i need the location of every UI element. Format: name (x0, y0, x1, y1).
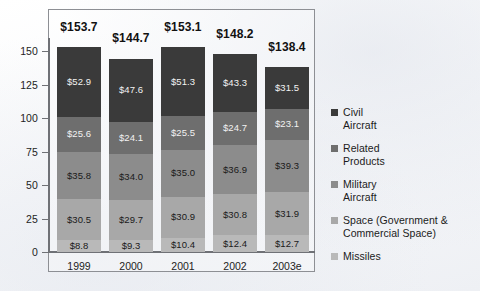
chart-legend: CivilAircraftRelatedProductsMilitaryAirc… (331, 106, 477, 274)
stacked-bar[interactable]: $12.7$31.9$39.3$23.1$31.5 (265, 67, 309, 252)
bar-segment-value-label: $47.6 (119, 85, 143, 95)
legend-swatch (331, 217, 338, 224)
legend-item-label: MilitaryAircraft (343, 178, 377, 203)
x-axis-category-label: 2003e (257, 261, 317, 272)
bar-segment: $31.9 (265, 192, 309, 235)
bar-segment: $30.5 (57, 199, 101, 240)
legend-item-label: RelatedProducts (343, 142, 385, 167)
legend-item-label-line2: Aircraft (343, 119, 377, 132)
bar-segment-value-label: $39.3 (275, 161, 299, 171)
bar-segment-value-label: $24.7 (223, 123, 247, 133)
bar-segment-value-label: $12.4 (223, 239, 247, 249)
bar-segment-value-label: $8.8 (70, 241, 89, 251)
bar-segment: $9.3 (109, 240, 153, 252)
bar-segment: $47.6 (109, 59, 153, 123)
bar-segment: $51.3 (161, 47, 205, 116)
legend-item-label-line2: Commercial Space) (343, 227, 448, 240)
bar-segment: $52.9 (57, 47, 101, 118)
bar-segment-value-label: $30.9 (171, 212, 195, 222)
bar-total-label: $144.7 (101, 32, 161, 45)
bar-segment-value-label: $30.5 (67, 215, 91, 225)
bar-segment: $23.1 (265, 109, 309, 140)
bar-segment-value-label: $52.9 (67, 77, 91, 87)
bar-segment-value-label: $31.5 (275, 83, 299, 93)
bar-segment: $10.4 (161, 238, 205, 252)
bar-segment-value-label: $9.3 (122, 241, 141, 251)
bar-segment-value-label: $12.7 (275, 239, 299, 249)
legend-swatch (331, 109, 338, 116)
bar-segment-value-label: $23.1 (275, 119, 299, 129)
bar-segment-value-label: $35.8 (67, 171, 91, 181)
bar-total-label: $153.1 (153, 21, 213, 34)
stacked-bar[interactable]: $12.4$30.8$36.9$24.7$43.3 (213, 54, 257, 252)
x-axis-category-label: 2001 (153, 261, 213, 272)
legend-item[interactable]: RelatedProducts (331, 142, 477, 167)
bar-segment: $30.9 (161, 197, 205, 238)
legend-item[interactable]: MilitaryAircraft (331, 178, 477, 203)
bar-segment: $31.5 (265, 67, 309, 109)
bar-segment: $12.7 (265, 235, 309, 252)
legend-item[interactable]: CivilAircraft (331, 106, 477, 131)
bar-total-label: $138.4 (257, 41, 317, 54)
bar-segment-value-label: $36.9 (223, 165, 247, 175)
stacked-bar[interactable]: $9.3$29.7$34.0$24.1$47.6 (109, 59, 153, 253)
legend-item-label-line2: Aircraft (343, 191, 377, 204)
stacked-bar[interactable]: $8.8$30.5$35.8$25.6$52.9 (57, 47, 101, 252)
x-axis-category-label: 2002 (205, 261, 265, 272)
bar-segment-value-label: $51.3 (171, 77, 195, 87)
legend-swatch (331, 253, 338, 260)
bar-segment: $34.0 (109, 154, 153, 199)
bar-segment-value-label: $34.0 (119, 172, 143, 182)
bar-segment: $25.5 (161, 116, 205, 150)
bar-segment: $29.7 (109, 200, 153, 240)
bar-segment-value-label: $24.1 (119, 133, 143, 143)
stacked-bar[interactable]: $10.4$30.9$35.0$25.5$51.3 (161, 47, 205, 252)
bar-segment: $39.3 (265, 140, 309, 193)
bar-segment: $43.3 (213, 54, 257, 112)
bar-segment: $12.4 (213, 235, 257, 252)
bar-segment-value-label: $31.9 (275, 209, 299, 219)
bar-segment-value-label: $25.6 (67, 129, 91, 139)
bar-segment-value-label: $35.0 (171, 168, 195, 178)
bar-segment: $24.1 (109, 122, 153, 154)
bar-segment: $8.8 (57, 240, 101, 252)
bar-segment-value-label: $25.5 (171, 128, 195, 138)
bar-segment: $35.0 (161, 150, 205, 197)
bar-segment: $25.6 (57, 117, 101, 151)
bar-segment-value-label: $29.7 (119, 215, 143, 225)
x-axis-category-label: 2000 (101, 261, 161, 272)
legend-item[interactable]: Missiles (331, 250, 477, 263)
legend-item-label: Space (Government &Commercial Space) (343, 214, 448, 239)
bar-segment: $24.7 (213, 112, 257, 145)
bar-segment-value-label: $43.3 (223, 78, 247, 88)
bar-total-label: $153.7 (49, 21, 109, 34)
bar-segment: $36.9 (213, 145, 257, 194)
x-axis-category-label: 1999 (49, 261, 109, 272)
legend-swatch (331, 145, 338, 152)
bar-segment-value-label: $30.8 (223, 210, 247, 220)
legend-item[interactable]: Space (Government &Commercial Space) (331, 214, 477, 239)
bar-total-label: $148.2 (205, 28, 265, 41)
bar-segment-value-label: $10.4 (171, 240, 195, 250)
bar-segment: $30.8 (213, 194, 257, 235)
legend-item-label: Missiles (343, 250, 381, 263)
legend-swatch (331, 181, 338, 188)
bar-segment: $35.8 (57, 152, 101, 200)
legend-item-label-line2: Products (343, 155, 385, 168)
legend-item-label: CivilAircraft (343, 106, 377, 131)
